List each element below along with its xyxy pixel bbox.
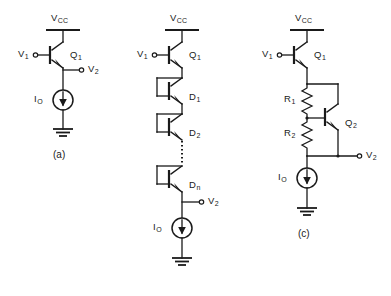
- panel-c-v1-terminal[interactable]: [277, 53, 281, 57]
- panel-c-v2-label: V2: [366, 150, 377, 161]
- panel-b-d2-emitter-slant: [171, 132, 182, 140]
- panel-c-r2-zigzag: [302, 118, 312, 156]
- panel-c-resistor-r1: [302, 84, 312, 118]
- panel-a-q1-label: Q1: [70, 50, 82, 61]
- panel-c-v2-terminal[interactable]: [357, 154, 361, 158]
- panel-b-d1-label: D1: [189, 92, 200, 103]
- panel-c-q1-label: Q1: [314, 50, 326, 61]
- panel-c-v1-label: V1: [262, 49, 273, 60]
- panel-a-circuit: [33, 30, 83, 136]
- panel-a-v1-label: V1: [18, 49, 29, 60]
- panel-c-collector-slant: [296, 42, 307, 50]
- panel-b-diode-dn: [157, 166, 182, 192]
- panel-a-caption: (a): [53, 149, 65, 160]
- panel-c-resistor-r2: [302, 118, 312, 156]
- panel-b-v1-label: V1: [137, 49, 148, 60]
- panel-c-output-junction-dot: [336, 154, 339, 157]
- panel-b-vcc-label: VCC: [170, 13, 187, 24]
- panel-c-caption: (c): [298, 228, 310, 239]
- panel-a-emitter-slant: [52, 60, 63, 68]
- panel-c-emitter-slant: [296, 60, 307, 68]
- panel-a-current-source-label: IO: [34, 94, 43, 105]
- panel-c-vcc-label: VCC: [295, 13, 312, 24]
- panel-b-collector-slant: [171, 42, 182, 50]
- panel-c-r1-label: R1: [284, 94, 295, 105]
- panel-c-r2-label: R2: [284, 128, 295, 139]
- panel-b-d2-label: D2: [189, 128, 200, 139]
- panel-a-v2-terminal[interactable]: [79, 68, 83, 72]
- panel-b-dn-collector-slant: [171, 166, 182, 174]
- panel-a-vcc-label: VCC: [51, 13, 68, 24]
- panel-b-d1-emitter-slant: [171, 96, 182, 104]
- panel-b-d2-collector-slant: [171, 114, 182, 122]
- panel-b-diode-d1: [157, 78, 182, 104]
- panel-a-collector-slant: [52, 42, 63, 50]
- panel-c-r1-zigzag: [302, 84, 312, 118]
- panel-b-q1-label: Q1: [189, 50, 201, 61]
- panel-a-v2-label: V2: [88, 64, 99, 75]
- panel-b-dn-label: Dn: [189, 180, 200, 191]
- panel-b-v1-terminal[interactable]: [152, 53, 156, 57]
- panel-b-emitter-slant: [171, 60, 182, 68]
- panel-c-q2-collector-slant: [327, 104, 338, 112]
- panel-c-current-source-label: IO: [278, 172, 287, 183]
- panel-b-v2-terminal[interactable]: [199, 200, 203, 204]
- panel-b-current-source-label: IO: [153, 222, 162, 233]
- panel-b-diode-d2: [157, 114, 182, 140]
- panel-b-v2-label: V2: [208, 196, 219, 207]
- panel-c-q2-emitter-slant: [327, 122, 338, 130]
- circuit-figure: VCC V1 V2 Q1 IO (a) VCC V1 Q1 D1 D2 Dn V…: [0, 0, 391, 296]
- panel-b-dn-emitter-slant: [171, 184, 182, 192]
- panel-c-q2-label: Q2: [345, 118, 357, 129]
- circuit-schematic-canvas: [0, 0, 391, 296]
- panel-a-v1-terminal[interactable]: [33, 53, 37, 57]
- panel-b-d1-collector-slant: [171, 78, 182, 86]
